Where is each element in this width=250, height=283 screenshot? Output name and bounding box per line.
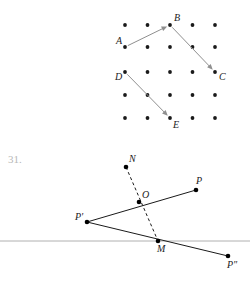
construction-point-label-Pp: P': [74, 211, 84, 222]
construction-point-label-P: P: [195, 175, 202, 186]
grid-dot-r3-c4: [213, 93, 217, 97]
vector-d-to-e-shaft: [127, 74, 165, 112]
grid-dot-r4-c4: [213, 116, 217, 120]
grid-dot-r1-c1: [146, 45, 150, 49]
vector-a-to-b-shaft: [128, 28, 164, 45]
grid-point-label-D: D: [114, 71, 123, 82]
grid-dot-r2-c1: [146, 70, 150, 74]
construction-point-label-Ppp: P": [226, 259, 238, 270]
problem-number-label: 31.: [8, 153, 22, 165]
grid-dot-r4-c0: [123, 116, 127, 120]
construction-point-Ppp: [226, 254, 231, 259]
grid-point-label-C: C: [219, 71, 226, 82]
grid-dot-r0-c3: [191, 23, 195, 27]
grid-dot-r2-c2: [168, 70, 172, 74]
geometry-worksheet-figure: ABCDE NOPP'MP" 31.: [0, 0, 250, 283]
grid-dot-r1-c4: [213, 45, 217, 49]
grid-dot-r3-c3: [191, 93, 195, 97]
grid-point-label-B: B: [174, 12, 180, 23]
vector-b-to-c-shaft: [172, 27, 210, 66]
grid-dot-r3-c2: [168, 93, 172, 97]
construction-point-O: [137, 200, 142, 205]
grid-dot-r2-c0: [123, 70, 127, 74]
construction-point-label-M: M: [156, 243, 166, 254]
grid-dot-r0-c2: [168, 23, 172, 27]
grid-dot-r3-c0: [123, 93, 127, 97]
construction-point-label-O: O: [142, 189, 149, 200]
grid-dot-r0-c4: [213, 23, 217, 27]
figure-canvas: ABCDE NOPP'MP" 31.: [0, 0, 250, 283]
construction-point-N: [124, 165, 129, 170]
segment-n-to-m-dashed: [126, 167, 158, 241]
construction-point-P: [194, 188, 199, 193]
grid-dot-r0-c1: [146, 23, 150, 27]
grid-dot-r4-c3: [191, 116, 195, 120]
grid-dot-r4-c1: [146, 116, 150, 120]
grid-dot-r4-c2: [168, 116, 172, 120]
grid-point-label-E: E: [172, 119, 179, 130]
grid-point-label-A: A: [115, 35, 123, 46]
construction-point-Pp: [85, 220, 90, 225]
grid-dot-r1-c2: [168, 45, 172, 49]
grid-dot-r2-c4: [213, 70, 217, 74]
grid-dot-r0-c0: [123, 23, 127, 27]
dot-grid-group: [123, 23, 217, 120]
grid-dot-r1-c0: [123, 45, 127, 49]
construction-point-label-N: N: [128, 153, 137, 164]
grid-dot-r2-c3: [191, 70, 195, 74]
